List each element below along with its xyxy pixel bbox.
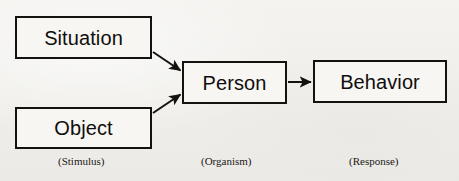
arrow-situation-to-person	[153, 52, 181, 71]
node-situation: Situation	[15, 16, 152, 59]
node-person-label: Person	[203, 73, 267, 93]
node-object-label: Object	[54, 118, 112, 138]
caption-response: (Response)	[349, 156, 399, 167]
caption-stimulus: (Stimulus)	[58, 156, 104, 167]
node-behavior-label: Behavior	[340, 72, 420, 92]
node-person: Person	[182, 61, 287, 104]
arrow-object-to-person	[153, 95, 181, 114]
node-behavior: Behavior	[313, 60, 447, 103]
diagram-canvas: Situation Object Person Behavior (Stimul…	[0, 0, 459, 181]
node-situation-label: Situation	[44, 28, 123, 48]
caption-organism: (Organism)	[201, 156, 252, 167]
node-object: Object	[15, 107, 152, 149]
